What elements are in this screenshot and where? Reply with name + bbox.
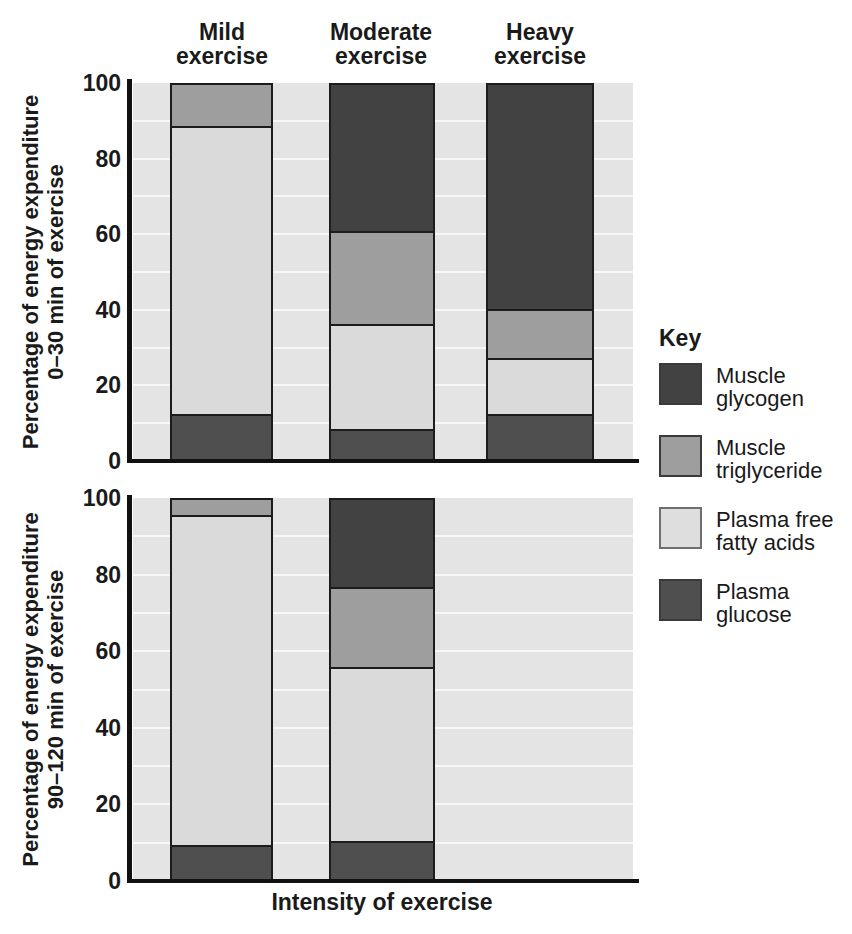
bar-segment-muscle-triglyceride — [488, 309, 592, 358]
plasma-glucose-swatch — [659, 579, 702, 621]
key-label-line: triglyceride — [716, 459, 822, 482]
bar-segment-muscle-triglyceride — [331, 587, 433, 667]
key-item-plasma-glucose: Plasma glucose — [659, 579, 849, 626]
key-label-line: Plasma free — [716, 508, 833, 531]
bar-segment-plasma-free-fatty-acids — [172, 515, 271, 845]
column-heading-mild-line2: exercise — [176, 44, 268, 68]
muscle-glycogen-swatch — [659, 363, 702, 405]
bar-segment-plasma-free-fatty-acids — [172, 126, 271, 414]
key-label-line: Plasma — [716, 580, 792, 603]
column-heading-heavy: Heavy exercise — [494, 20, 586, 68]
energy-expenditure-figure: Mild exercise Moderate exercise Heavy ex… — [0, 0, 852, 934]
key-item-muscle-glycogen: Muscle glycogen — [659, 363, 849, 410]
bar-segment-plasma-free-fatty-acids — [331, 324, 433, 429]
bar-segment-muscle-triglyceride — [331, 231, 433, 325]
key-label-line: Muscle — [716, 436, 822, 459]
y-axis-label-bottom-line1: Percentage of energy expenditure — [18, 498, 43, 881]
plasma-free-fatty-acids-swatch — [659, 507, 702, 549]
stacked-bar-moderate-exercise — [329, 498, 435, 881]
column-heading-mild: Mild exercise — [176, 20, 268, 68]
y-axis-label-top-line1: Percentage of energy expenditure — [18, 83, 43, 461]
bar-segment-plasma-glucose — [172, 414, 271, 459]
key-legend: Key Muscle glycogen Muscle triglyceride … — [659, 326, 849, 651]
key-label-plasma-free-fatty-acids: Plasma free fatty acids — [716, 507, 833, 554]
bar-segment-muscle-glycogen — [331, 500, 433, 587]
key-label-line: fatty acids — [716, 531, 833, 554]
bar-segment-plasma-free-fatty-acids — [331, 667, 433, 841]
y-axis-label-top-line2: 0–30 min of exercise — [43, 83, 68, 461]
stacked-bar-heavy-exercise — [486, 83, 594, 461]
y-axis-label-bottom-line2: 90–120 min of exercise — [43, 498, 68, 881]
y-axis-line-bottom-chart — [127, 495, 132, 883]
column-heading-moderate-line1: Moderate — [330, 20, 432, 44]
bar-segment-muscle-glycogen — [488, 85, 592, 309]
column-heading-heavy-line2: exercise — [494, 44, 586, 68]
bar-segment-plasma-free-fatty-acids — [488, 358, 592, 414]
column-heading-moderate-line2: exercise — [330, 44, 432, 68]
key-title: Key — [659, 326, 849, 350]
stacked-bar-moderate-exercise — [329, 83, 435, 461]
key-label-line: glucose — [716, 603, 792, 626]
stacked-bar-mild-exercise — [170, 83, 273, 461]
bar-segment-muscle-glycogen — [331, 85, 433, 231]
bar-segment-plasma-glucose — [172, 845, 271, 879]
key-item-muscle-triglyceride: Muscle triglyceride — [659, 435, 849, 482]
plot-area-0-30-min — [133, 83, 633, 461]
bar-segment-plasma-glucose — [331, 429, 433, 459]
bar-segment-plasma-glucose — [488, 414, 592, 459]
bar-segment-muscle-triglyceride — [172, 85, 271, 126]
key-label-muscle-triglyceride: Muscle triglyceride — [716, 435, 822, 482]
stacked-bar-mild-exercise — [170, 498, 273, 881]
bar-segment-muscle-triglyceride — [172, 500, 271, 515]
key-label-line: Muscle — [716, 364, 804, 387]
bar-segment-plasma-glucose — [331, 841, 433, 879]
muscle-triglyceride-swatch — [659, 435, 702, 477]
y-axis-label-top-chart: Percentage of energy expenditure 0–30 mi… — [18, 83, 68, 461]
column-heading-mild-line1: Mild — [176, 20, 268, 44]
plot-area-90-120-min — [133, 498, 633, 881]
key-label-muscle-glycogen: Muscle glycogen — [716, 363, 804, 410]
key-item-plasma-free-fatty-acids: Plasma free fatty acids — [659, 507, 849, 554]
key-label-line: glycogen — [716, 387, 804, 410]
y-axis-label-bottom-chart: Percentage of energy expenditure 90–120 … — [18, 498, 68, 881]
column-heading-moderate: Moderate exercise — [330, 20, 432, 68]
column-heading-heavy-line1: Heavy — [494, 20, 586, 44]
x-axis-line-top-chart — [127, 459, 639, 463]
key-label-plasma-glucose: Plasma glucose — [716, 579, 792, 626]
y-axis-line-top-chart — [127, 79, 132, 463]
x-axis-title: Intensity of exercise — [271, 889, 492, 916]
x-axis-line-bottom-chart — [127, 879, 639, 883]
